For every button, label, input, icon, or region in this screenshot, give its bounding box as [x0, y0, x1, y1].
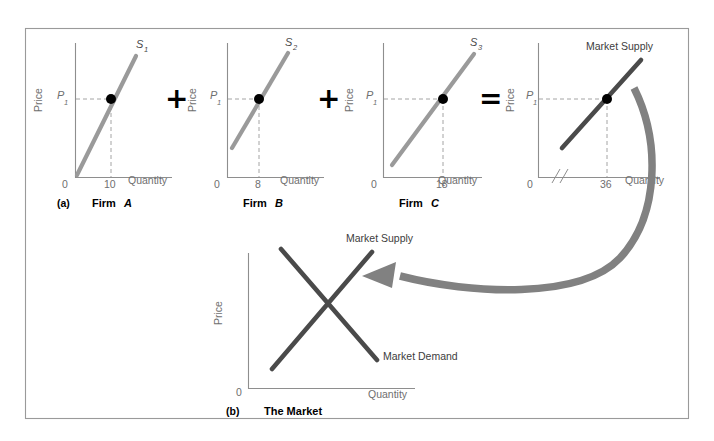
panel-b-quantity-tick: 8: [255, 178, 261, 190]
panel-market-ylabel: Price: [212, 301, 224, 325]
panel-c-series-label: S: [470, 36, 478, 48]
figure-root: Price Quantity 0 10 P 1 S 1 (a) Firm A +…: [0, 0, 714, 441]
panel-d-quantity-tick: 36: [600, 178, 612, 190]
panel-d-xlabel: Quantity: [625, 174, 665, 186]
panel-b-price-sub: 1: [217, 98, 221, 107]
panel-market-origin-label: 0: [236, 386, 242, 398]
panel-a-supply-curve: [77, 56, 136, 175]
panel-the-market: Price Quantity 0 Market Supply Market De…: [212, 232, 458, 417]
panel-market-tag: (b): [226, 405, 239, 417]
panel-d-price-sub: 1: [533, 98, 537, 107]
panel-b-equilibrium-point: [254, 94, 264, 104]
market-demand-curve-label: Market Demand: [383, 350, 458, 362]
panel-b-axes: [228, 43, 325, 178]
panel-b-series-sub: 2: [292, 43, 298, 52]
economics-figure: Price Quantity 0 10 P 1 S 1 (a) Firm A +…: [0, 0, 714, 441]
panel-d-origin-label: 0: [527, 178, 533, 190]
panel-a-axes: [76, 43, 173, 178]
panel-market-xlabel: Quantity: [368, 388, 408, 400]
panel-a-equilibrium-point: [106, 94, 116, 104]
panel-a-xlabel: Quantity: [128, 174, 168, 186]
panel-a-ylabel: Price: [32, 88, 44, 112]
panel-b-origin-label: 0: [214, 178, 220, 190]
panel-c-equilibrium-point: [438, 94, 448, 104]
market-supply-line: [272, 252, 372, 369]
operator-plus-2: +: [317, 82, 340, 115]
panel-a-quantity-tick: 10: [104, 178, 116, 190]
panel-c-price-sub: 1: [373, 98, 377, 107]
panel-firm-c: Price Quantity 0 18 P 1 S 3 Firm C: [343, 36, 483, 209]
panel-market-supply: Price Quantity 0 36 P 1 Market Supply: [504, 40, 665, 190]
panel-b-xlabel: Quantity: [280, 174, 320, 186]
panel-a-price-sub: 1: [64, 98, 68, 107]
panel-c-supply-curve: [392, 54, 474, 165]
market-supply-curve-label: Market Supply: [346, 232, 414, 244]
panel-a-tag: (a): [57, 197, 70, 209]
panel-a-origin-label: 0: [62, 178, 68, 190]
panel-b-caption-prefix: Firm: [243, 197, 267, 209]
panel-a-series-label: S: [136, 38, 144, 50]
panel-a-caption-name: A: [123, 197, 132, 209]
panel-c-caption-name: C: [431, 197, 440, 209]
panel-d-equilibrium-point: [602, 94, 612, 104]
panel-d-ylabel: Price: [504, 88, 516, 112]
figure-border: [26, 29, 689, 419]
panel-c-series-sub: 3: [478, 43, 483, 52]
panel-b-caption-name: B: [275, 197, 283, 209]
panel-firm-b: Price Quantity 0 8 P 1 S 2 Firm B: [186, 36, 324, 209]
operator-plus-1: +: [165, 82, 188, 115]
panel-d-series-label: Market Supply: [586, 40, 654, 52]
panel-a-series-sub: 1: [144, 45, 148, 54]
panel-b-ylabel: Price: [186, 88, 198, 112]
market-supply-arrow-head: [362, 262, 396, 288]
panel-market-caption: The Market: [264, 405, 322, 417]
panel-c-quantity-tick: 18: [436, 178, 448, 190]
panel-a-caption-prefix: Firm: [92, 197, 116, 209]
operator-equals-1: =: [479, 82, 502, 115]
panel-c-ylabel: Price: [343, 88, 355, 112]
panel-c-origin-label: 0: [371, 178, 377, 190]
panel-b-series-label: S: [285, 36, 293, 48]
panel-firm-a: Price Quantity 0 10 P 1 S 1 (a) Firm A: [32, 38, 172, 209]
panel-c-caption-prefix: Firm: [399, 197, 423, 209]
panel-d-supply-curve: [562, 60, 641, 148]
panel-d-axis-break: [552, 169, 568, 183]
